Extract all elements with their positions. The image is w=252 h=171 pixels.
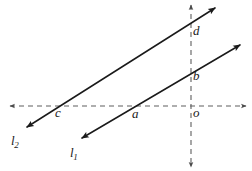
geometry-figure: d b c a o l1 l2 bbox=[0, 0, 252, 171]
axes-group bbox=[10, 5, 246, 167]
figure-canvas bbox=[0, 0, 252, 171]
point-label-c: c bbox=[55, 106, 61, 119]
line-label-l1-subscript: 1 bbox=[73, 152, 78, 162]
line-label-l1: l1 bbox=[70, 146, 78, 162]
line-l1 bbox=[82, 45, 240, 138]
point-label-d: d bbox=[193, 24, 200, 37]
point-label-a: a bbox=[132, 107, 139, 120]
line-label-l2-subscript: 2 bbox=[14, 140, 19, 150]
point-label-b: b bbox=[193, 69, 200, 82]
point-label-o: o bbox=[193, 106, 200, 119]
line-label-l2: l2 bbox=[11, 134, 19, 150]
